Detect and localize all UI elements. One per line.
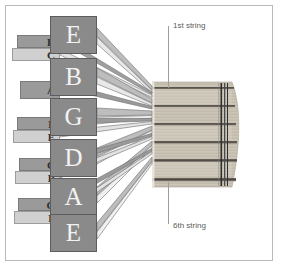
note-box-string-6-e: E: [50, 214, 97, 252]
note-box-string-1-e: E: [50, 16, 97, 54]
note-box-string-2-b: B: [50, 58, 97, 96]
first-string-label: 1st string: [173, 21, 205, 30]
sixth-string-leader-line: [168, 182, 169, 224]
first-string-leader-line: [168, 26, 169, 88]
note-box-string-3-g: G: [50, 98, 97, 136]
diagram-canvas: D C A F E C B G F E B G D A E 1st string…: [0, 0, 281, 269]
note-box-string-5-a: A: [50, 178, 97, 216]
sixth-string-label: 6th string: [173, 221, 206, 230]
note-box-string-4-d: D: [50, 139, 97, 177]
